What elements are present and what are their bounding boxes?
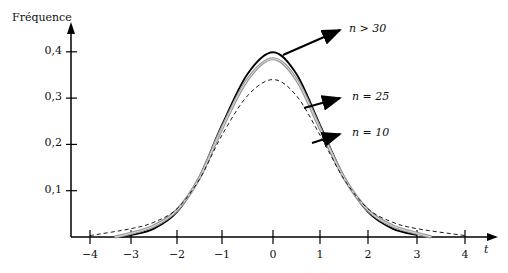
y-tick-label: 0,4 (32, 44, 62, 57)
curve-n-25-inner (115, 59, 432, 237)
annotation-n25: n = 25 (352, 90, 389, 103)
annotation-n30: n > 30 (349, 22, 386, 35)
x-tick-label: 4 (453, 248, 477, 261)
x-tick-label: 3 (405, 248, 429, 261)
x-tick-label: −3 (119, 248, 143, 261)
y-tick-label: 0,1 (32, 183, 62, 196)
annotation-n10: n = 10 (352, 126, 389, 139)
x-axis-arrow-icon (487, 233, 498, 241)
chart-canvas (0, 0, 508, 273)
y-axis-label: Fréquence (12, 11, 72, 24)
x-tick-label: −4 (78, 248, 102, 261)
annotation-arrows (283, 30, 340, 143)
x-tick-label: 2 (356, 248, 380, 261)
x-tick-label: 1 (308, 248, 332, 261)
curves (90, 52, 465, 237)
curve-n-25-outer (115, 59, 432, 237)
curve-n-gt-30 (119, 52, 417, 237)
y-tick-label: 0,2 (32, 136, 62, 149)
x-axis-label: t (484, 243, 488, 256)
x-tick-label: 0 (261, 248, 285, 261)
y-tick-label: 0,3 (32, 90, 62, 103)
x-tick-label: −2 (165, 248, 189, 261)
arrow-n30 (283, 30, 340, 55)
x-tick-label: −1 (210, 248, 234, 261)
curve-n-10 (90, 80, 465, 236)
